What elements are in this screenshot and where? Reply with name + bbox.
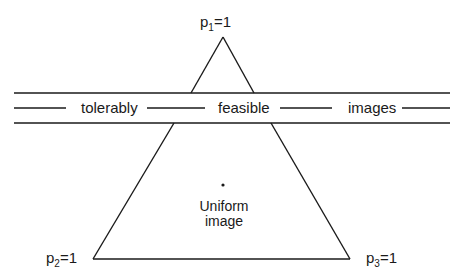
band-label-feasible: feasible bbox=[217, 100, 271, 115]
vertex-label-p3: p3=1 bbox=[366, 250, 397, 272]
uniform-image-label: Uniform image bbox=[184, 199, 264, 229]
triangle-left-lower bbox=[93, 123, 174, 259]
uniform-image-line2: image bbox=[184, 214, 264, 229]
vertex-label-p1: p1=1 bbox=[200, 14, 231, 36]
vertex-p3-eq: =1 bbox=[380, 249, 397, 266]
uniform-image-point bbox=[221, 183, 224, 186]
vertex-p1-eq: =1 bbox=[214, 13, 231, 30]
band-label-images: images bbox=[347, 100, 397, 115]
band-label-tolerably: tolerably bbox=[80, 100, 139, 115]
simplex-diagram bbox=[0, 0, 462, 279]
uniform-image-line1: Uniform bbox=[184, 199, 264, 214]
triangle-right-upper bbox=[223, 37, 254, 93]
triangle-left-upper bbox=[191, 37, 223, 93]
vertex-label-p2: p2=1 bbox=[46, 250, 77, 272]
triangle-right-lower bbox=[271, 123, 350, 259]
vertex-p2-eq: =1 bbox=[60, 249, 77, 266]
